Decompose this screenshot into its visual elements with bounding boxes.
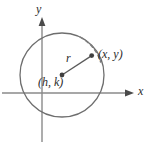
circle-point-label: (x, y)	[98, 48, 123, 60]
x-axis-label: x	[138, 85, 143, 97]
radius-label: r	[66, 52, 71, 64]
circle-point-dot	[89, 53, 94, 58]
circle-diagram-figure: y x r (h, k) (x, y)	[0, 0, 149, 144]
center-point-label: (h, k)	[38, 76, 63, 88]
y-axis-label: y	[36, 3, 41, 15]
circle-diagram-canvas	[0, 0, 149, 144]
y-axis-arrowhead-icon	[39, 17, 46, 26]
x-axis-arrowhead-icon	[125, 90, 134, 97]
